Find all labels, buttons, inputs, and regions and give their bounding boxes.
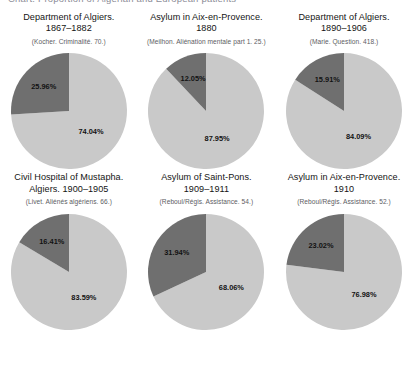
pie-4: 68.06%31.94% <box>145 211 267 333</box>
chart-title-2: Department of Algiers. <box>275 12 413 23</box>
chart-title-5: Asylum in Aix-en-Provence. <box>275 172 413 183</box>
pie-chart-cell-0: Department of Algiers. 1867–1882 (Kocher… <box>0 12 138 172</box>
chart-title-3: Civil Hospital of Mustapha. <box>0 172 138 183</box>
pie-slice-label-1-0: 87.95% <box>205 134 230 143</box>
chart-title-1: Asylum in Aix-en-Provence. <box>138 12 276 23</box>
pie-slice-label-4-0: 68.06% <box>219 283 244 292</box>
pie-chart-cell-4: Asylum of Saint-Pons. 1909–1911 (Reboul/… <box>138 172 276 332</box>
chart-title-4: Asylum of Saint-Pons. <box>138 172 276 183</box>
pie-slice-label-0-0: 74.04% <box>78 127 103 136</box>
chart-caption-2: Department of Algiers. 1890–1906 (Marie.… <box>275 12 413 47</box>
pie-3: 83.59%16.41% <box>8 211 130 333</box>
chart-source-3: (Livet. Aliénés algériens. 66.) <box>0 196 138 207</box>
pie-chart-cell-5: Asylum in Aix-en-Provence. 1910 (Reboul/… <box>275 172 413 332</box>
chart-caption-1: Asylum in Aix-en-Provence. 1880 (Meilhon… <box>138 12 276 47</box>
pie-svg-2: 84.09%15.91% <box>283 50 405 172</box>
chart-caption-3: Civil Hospital of Mustapha. Algiers. 190… <box>0 172 138 207</box>
pie-chart-figure: Chart. Proportion of Algerian and Europe… <box>0 0 413 379</box>
pie-svg-4: 68.06%31.94% <box>145 211 267 333</box>
pie-slice-label-5-0: 76.98% <box>351 289 376 298</box>
pie-chart-cell-3: Civil Hospital of Mustapha. Algiers. 190… <box>0 172 138 332</box>
pie-chart-grid: Department of Algiers. 1867–1882 (Kocher… <box>0 12 413 333</box>
pie-svg-5: 76.98%23.02% <box>283 211 405 333</box>
chart-title-0: Department of Algiers. <box>0 12 138 23</box>
chart-subtitle-4: 1909–1911 <box>138 184 276 195</box>
chart-caption-4: Asylum of Saint-Pons. 1909–1911 (Reboul/… <box>138 172 276 207</box>
pie-slice-label-4-1: 31.94% <box>165 248 190 257</box>
pie-2: 84.09%15.91% <box>283 50 405 172</box>
pie-slice-label-2-0: 84.09% <box>346 133 371 142</box>
chart-source-1: (Meilhon. Aliénation mentale part 1. 25.… <box>138 36 276 47</box>
chart-subtitle-0: 1867–1882 <box>0 23 138 34</box>
chart-source-0: (Kocher. Criminalité. 70.) <box>0 36 138 47</box>
pie-svg-3: 83.59%16.41% <box>8 211 130 333</box>
pie-slice-label-5-1: 23.02% <box>308 241 333 250</box>
pie-slice-label-2-1: 15.91% <box>315 76 340 85</box>
chart-subtitle-1: 1880 <box>138 23 276 34</box>
pie-slice-label-3-0: 83.59% <box>71 293 96 302</box>
pie-0: 74.04%25.96% <box>8 50 130 172</box>
pie-5: 76.98%23.02% <box>283 211 405 333</box>
chart-source-5: (Reboul/Régis. Assistance. 52.) <box>275 196 413 207</box>
pie-svg-1: 87.95%12.05% <box>145 50 267 172</box>
chart-subtitle-3: Algiers. 1900–1905 <box>0 184 138 195</box>
chart-source-4: (Reboul/Régis. Assistance. 54.) <box>138 196 276 207</box>
pie-chart-cell-1: Asylum in Aix-en-Provence. 1880 (Meilhon… <box>138 12 276 172</box>
pie-slice-label-0-1: 25.96% <box>31 82 56 91</box>
chart-source-2: (Marie. Question. 418.) <box>275 36 413 47</box>
chart-caption-0: Department of Algiers. 1867–1882 (Kocher… <box>0 12 138 47</box>
chart-subtitle-2: 1890–1906 <box>275 23 413 34</box>
clipped-figure-header: Chart. Proportion of Algerian and Europe… <box>8 0 406 7</box>
pie-slice-label-3-1: 16.41% <box>39 236 64 245</box>
pie-slice-label-1-1: 12.05% <box>181 74 206 83</box>
chart-subtitle-5: 1910 <box>275 184 413 195</box>
pie-1: 87.95%12.05% <box>145 50 267 172</box>
pie-svg-0: 74.04%25.96% <box>8 50 130 172</box>
pie-chart-cell-2: Department of Algiers. 1890–1906 (Marie.… <box>275 12 413 172</box>
chart-caption-5: Asylum in Aix-en-Provence. 1910 (Reboul/… <box>275 172 413 207</box>
